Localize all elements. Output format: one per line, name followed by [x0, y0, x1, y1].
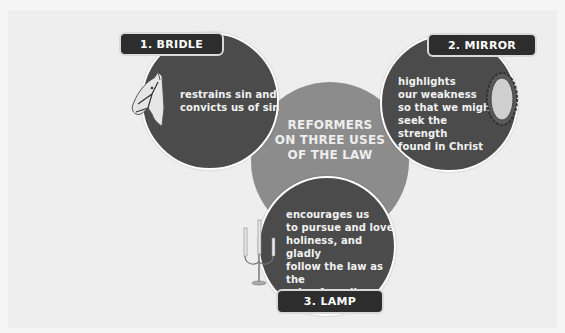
- description-line: holiness, and gladly: [286, 234, 396, 260]
- description-line: so that we might: [398, 101, 498, 114]
- center-title: REFORMERS ON THREE USES OF THE LAW: [262, 118, 398, 163]
- bridle-label: 1. BRIDLE: [119, 32, 224, 56]
- description-line: encourages us: [286, 208, 396, 221]
- candelabra-icon: [240, 218, 280, 288]
- description-line: convicts us of sin: [180, 101, 280, 114]
- lamp-label: 3. LAMP: [276, 289, 384, 314]
- lamp-description: encourages us to pursue and love holines…: [286, 208, 396, 299]
- description-line: found in Christ: [398, 140, 498, 153]
- center-title-line: REFORMERS: [262, 118, 398, 133]
- description-line: highlights: [398, 75, 498, 88]
- mirror-description: highlights our weakness so that we might…: [398, 75, 498, 153]
- diagram-canvas: REFORMERS ON THREE USES OF THE LAW restr…: [0, 0, 565, 333]
- description-line: seek the strength: [398, 114, 498, 140]
- mirror-label: 2. MIRROR: [427, 33, 537, 57]
- description-line: to pursue and love: [286, 221, 396, 234]
- description-line: follow the law as the: [286, 260, 396, 286]
- center-title-line: ON THREE USES: [262, 133, 398, 148]
- description-line: restrains sin and: [180, 88, 280, 101]
- mirror-icon: [484, 69, 520, 129]
- bridle-description: restrains sin and convicts us of sin: [180, 88, 280, 114]
- horse-bridle-icon: [128, 68, 168, 130]
- description-line: our weakness: [398, 88, 498, 101]
- center-title-line: OF THE LAW: [262, 148, 398, 163]
